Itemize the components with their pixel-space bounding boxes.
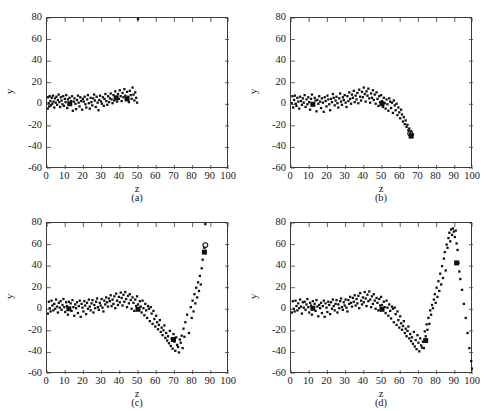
y-tick-label: 0 <box>16 303 42 314</box>
x-tick-label: 100 <box>460 171 484 182</box>
panel-caption: (a) <box>117 193 157 204</box>
plot-area <box>290 222 472 373</box>
x-tick-label: 100 <box>216 171 240 182</box>
series-samples <box>291 227 473 370</box>
y-tick-label: 20 <box>16 282 42 293</box>
y-tick-label: 80 <box>260 217 286 228</box>
y-tick-label: -40 <box>260 141 286 152</box>
y-tick-label: 40 <box>260 260 286 271</box>
data-layer <box>291 223 473 374</box>
data-layer <box>47 223 229 374</box>
y-tick-label: -40 <box>260 346 286 357</box>
panel-caption: (b) <box>361 193 401 204</box>
y-tick-label: 60 <box>16 34 42 45</box>
panel-caption: (d) <box>361 398 401 409</box>
y-tick-label: 60 <box>260 34 286 45</box>
plot-area <box>46 17 228 168</box>
panel-caption: (c) <box>117 398 157 409</box>
y-axis-label: y <box>249 81 260 101</box>
y-tick-label: 20 <box>16 77 42 88</box>
plot-area <box>290 17 472 168</box>
y-tick-label: -40 <box>16 346 42 357</box>
x-tick-label: 100 <box>216 376 240 387</box>
y-tick-label: 0 <box>260 98 286 109</box>
y-tick-label: -20 <box>16 325 42 336</box>
y-tick-label: -20 <box>260 325 286 336</box>
y-tick-label: 80 <box>16 12 42 23</box>
y-tick-label: 60 <box>260 239 286 250</box>
data-layer <box>47 18 229 169</box>
series-samples <box>291 86 414 137</box>
plot-area <box>46 222 228 373</box>
data-layer <box>291 18 473 169</box>
y-tick-label: 20 <box>260 77 286 88</box>
scatter-figure: -60-40-200204060800102030405060708090100… <box>0 0 490 411</box>
y-tick-label: 40 <box>16 55 42 66</box>
y-tick-label: 80 <box>260 12 286 23</box>
y-axis-label: y <box>5 286 16 306</box>
x-tick-label: 100 <box>460 376 484 387</box>
y-axis-label: y <box>5 81 16 101</box>
y-tick-label: -20 <box>260 120 286 131</box>
y-tick-label: -40 <box>16 141 42 152</box>
y-axis-label: y <box>249 286 260 306</box>
y-tick-label: 40 <box>16 260 42 271</box>
y-tick-label: 80 <box>16 217 42 228</box>
y-tick-label: 20 <box>260 282 286 293</box>
y-tick-label: 0 <box>260 303 286 314</box>
series-samples <box>47 223 206 354</box>
y-tick-label: 40 <box>260 55 286 66</box>
y-tick-label: -20 <box>16 120 42 131</box>
y-tick-label: 0 <box>16 98 42 109</box>
y-tick-label: 60 <box>16 239 42 250</box>
